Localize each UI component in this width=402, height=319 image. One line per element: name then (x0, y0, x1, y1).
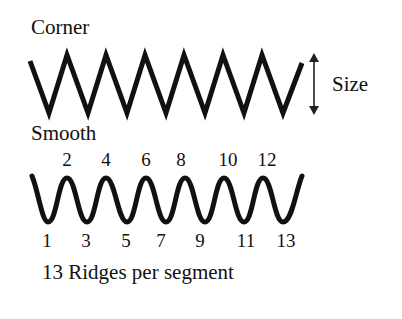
ridge-number: 4 (101, 150, 111, 169)
ridge-number: 6 (141, 150, 151, 169)
ridge-number: 3 (81, 231, 91, 250)
smooth-wave (32, 176, 302, 222)
size-label: Size (332, 74, 368, 95)
ridge-number: 7 (156, 231, 166, 250)
ridge-number: 1 (42, 231, 52, 250)
ridge-number: 10 (219, 150, 238, 169)
ridge-number: 8 (176, 150, 186, 169)
corner-zigzag (30, 55, 302, 113)
ridge-number: 5 (121, 231, 131, 250)
ridge-number: 9 (195, 231, 205, 250)
ridge-number: 12 (258, 150, 277, 169)
caption: 13 Ridges per segment (42, 262, 234, 283)
caption-count: 13 (42, 260, 63, 284)
smooth-label: Smooth (31, 123, 96, 144)
caption-text: Ridges per segment (68, 260, 234, 284)
size-arrow-icon (309, 53, 319, 115)
ridge-number: 11 (237, 231, 255, 250)
ridge-number: 2 (62, 150, 72, 169)
ridge-number: 13 (277, 231, 296, 250)
